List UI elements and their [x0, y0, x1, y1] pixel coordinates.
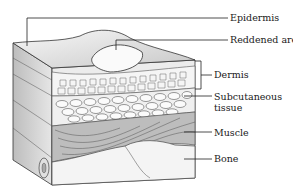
skin-layers-diagram: Epidermis Reddened area Dermis Subcutane…	[0, 0, 293, 196]
label-subcutaneous: Subcutaneous	[214, 91, 282, 102]
label-subcutaneous-tissue: tissue	[214, 102, 242, 113]
label-bone: Bone	[214, 153, 238, 164]
label-epidermis: Epidermis	[230, 12, 279, 23]
dermis-bracket	[195, 61, 201, 89]
label-reddened-area: Reddened area	[230, 34, 293, 45]
label-dermis: Dermis	[214, 69, 249, 80]
label-muscle: Muscle	[214, 127, 249, 138]
